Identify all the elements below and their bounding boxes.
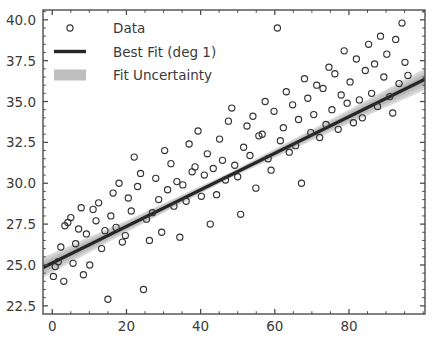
scatter-plot-svg: 020406080 22.525.027.530.032.535.037.540… — [0, 0, 437, 342]
y-tick-label: 35.0 — [6, 94, 36, 110]
legend-label: Data — [113, 20, 145, 36]
y-tick-label: 37.5 — [6, 53, 36, 69]
chart-figure: 020406080 22.525.027.530.032.535.037.540… — [0, 0, 437, 342]
x-tick-label: 60 — [266, 318, 283, 334]
y-tick-label: 30.0 — [6, 175, 36, 191]
legend-label: Fit Uncertainty — [113, 67, 212, 83]
x-tick-label: 80 — [340, 318, 357, 334]
legend-marker-uncertainty — [54, 70, 86, 81]
x-tick-label: 40 — [192, 318, 209, 334]
y-tick-label: 40.0 — [6, 12, 36, 28]
y-tick-label: 22.5 — [6, 298, 36, 314]
y-tick-label: 32.5 — [6, 134, 36, 150]
y-tick-label: 25.0 — [6, 257, 36, 273]
y-tick-label: 27.5 — [6, 216, 36, 232]
x-tick-label: 0 — [48, 318, 57, 334]
x-tick-label: 20 — [118, 318, 135, 334]
legend-label: Best Fit (deg 1) — [113, 44, 216, 60]
